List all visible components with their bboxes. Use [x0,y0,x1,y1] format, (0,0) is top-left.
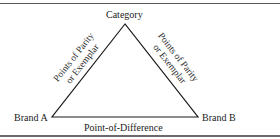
bottom-border-rule [0,135,280,137]
node-category-label: Category [106,9,143,20]
node-brand-a-label: Brand A [14,112,48,123]
node-brand-b-label: Brand B [202,112,236,123]
edge-bottom-label: Point-of-Difference [84,122,163,133]
